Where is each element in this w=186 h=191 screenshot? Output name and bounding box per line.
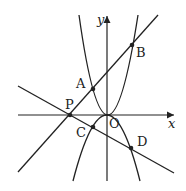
point-d (129, 146, 134, 151)
y-axis-label: y (96, 12, 105, 27)
upper-parabola (79, 15, 138, 115)
point-b (130, 43, 135, 48)
x-axis-label: x (168, 116, 176, 131)
point-p (68, 113, 73, 118)
label-p: P (65, 97, 74, 112)
label-c: C (76, 125, 86, 140)
label-a: A (75, 76, 86, 91)
label-d: D (137, 134, 147, 149)
label-b: B (136, 45, 146, 60)
point-c (91, 125, 96, 130)
origin-label: O (109, 116, 120, 131)
diagram-canvas: y x O P A B C D (0, 0, 186, 191)
point-a (91, 87, 96, 92)
